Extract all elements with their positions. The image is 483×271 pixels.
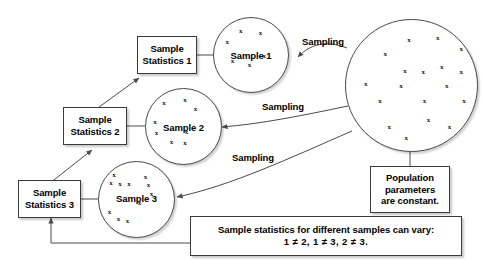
sample-statistics-1-line1: Sample [150, 43, 183, 55]
sample-2-datapoint-x: x [194, 106, 198, 113]
sample-statistics-1-line2: Statistics 1 [143, 55, 192, 67]
sample-2-circle[interactable]: Sample 2 xxxxxxxx [145, 88, 222, 165]
population-datapoint-x: x [405, 134, 409, 141]
sample-2-datapoint-x: x [185, 128, 189, 135]
sampling-label-2: Sampling [262, 101, 304, 112]
sample-3-datapoint-x: x [150, 190, 154, 197]
population-datapoint-x: x [460, 69, 464, 76]
population-parameters-line2: parameters [385, 184, 435, 196]
population-datapoint-x: x [448, 124, 452, 131]
sample-statistics-1-box[interactable]: Sample Statistics 1 [137, 36, 197, 74]
sample-3-datapoint-x: x [118, 180, 122, 187]
compare-arrow-stat2-stat1 [95, 78, 139, 110]
sample-statistics-3-line1: Sample [33, 187, 66, 199]
sampling-label-3: Sampling [232, 152, 274, 163]
sample-2-datapoint-x: x [153, 119, 157, 126]
population-datapoint-x: x [364, 81, 368, 88]
sample-statistics-2-line1: Sample [78, 114, 111, 126]
sample-3-datapoint-x: x [147, 181, 151, 188]
sample-1-label: Sample 1 [214, 50, 288, 61]
population-datapoint-x: x [378, 98, 382, 105]
sample-2-datapoint-x: x [155, 129, 159, 136]
sample-3-datapoint-x: x [109, 180, 113, 187]
sample-3-datapoint-x: x [138, 199, 142, 206]
vary-box-line2: 1 ≠ 2, 1 ≠ 3, 2 ≠ 3. [284, 236, 368, 248]
sample-3-datapoint-x: x [117, 216, 121, 223]
sampling-label-1: Sampling [302, 36, 344, 47]
sample-3-datapoint-x: x [127, 180, 131, 187]
population-datapoint-x: x [427, 116, 431, 123]
population-datapoint-x: x [460, 45, 464, 52]
sample-1-datapoint-x: x [231, 57, 235, 64]
vary-box-line1: Sample statistics for different samples … [218, 224, 434, 236]
sample-3-datapoint-x: x [126, 218, 130, 225]
population-datapoint-x: x [436, 35, 440, 42]
sample-2-datapoint-x: x [162, 99, 166, 106]
sample-2-datapoint-x: x [170, 139, 174, 146]
sample-statistics-vary-box[interactable]: Sample statistics for different samples … [190, 216, 462, 256]
sample-1-datapoint-x: x [226, 39, 230, 46]
sample-2-datapoint-x: x [183, 96, 187, 103]
sample-1-datapoint-x: x [263, 53, 267, 60]
sample-statistics-3-box[interactable]: Sample Statistics 3 [18, 180, 81, 218]
population-circle[interactable]: xxxxxxxxxxxxxxxxxx [345, 19, 478, 152]
compare-arrow-stat3-stat2 [50, 150, 92, 183]
population-datapoint-x: x [423, 98, 427, 105]
sample-statistics-2-line2: Statistics 2 [71, 126, 120, 138]
population-datapoint-x: x [462, 98, 466, 105]
population-datapoint-x: x [445, 82, 449, 89]
population-parameters-line1: Population [386, 172, 434, 184]
population-datapoint-x: x [399, 82, 403, 89]
sample-1-datapoint-x: x [248, 62, 252, 69]
sample-1-circle[interactable]: Sample 1 xxxxxx [213, 17, 289, 93]
population-datapoint-x: x [403, 68, 407, 75]
sample-1-datapoint-x: x [259, 29, 263, 36]
population-parameters-line3: are constant. [381, 195, 439, 207]
diagram-canvas: Sample Statistics 1 Sample Statistics 2 … [0, 0, 483, 271]
sample-3-circle[interactable]: Sample 3 xxxxxxxxxxx [98, 161, 175, 238]
sample-3-datapoint-x: x [112, 171, 116, 178]
population-datapoint-x: x [440, 64, 444, 71]
sample-3-label: Sample 3 [99, 193, 174, 204]
population-datapoint-x: x [407, 36, 411, 43]
population-parameters-box[interactable]: Population parameters are constant. [370, 166, 450, 213]
sample-statistics-2-box[interactable]: Sample Statistics 2 [63, 107, 127, 145]
population-datapoint-x: x [422, 69, 426, 76]
sample-statistics-3-line2: Statistics 3 [25, 199, 74, 211]
sample-1-datapoint-x: x [239, 28, 243, 35]
population-datapoint-x: x [384, 51, 388, 58]
sample-2-datapoint-x: x [183, 140, 187, 147]
sample-3-datapoint-x: x [108, 208, 112, 215]
population-datapoint-x: x [387, 124, 391, 131]
